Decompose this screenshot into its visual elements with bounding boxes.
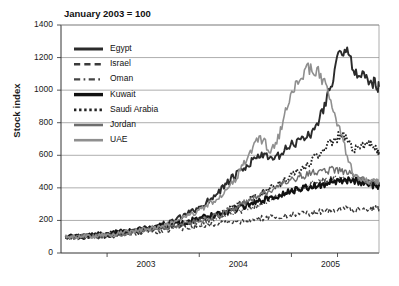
legend-swatches	[74, 49, 103, 140]
chart-figure: January 2003 = 100 Stock index 020040060…	[0, 0, 399, 286]
legend-label-uae: UAE	[110, 134, 127, 144]
legend-label-oman: Oman	[110, 73, 133, 83]
legend-label-egypt: Egypt	[110, 43, 132, 53]
legend-label-israel: Israel	[110, 58, 131, 68]
legend-label-jordan: Jordan	[110, 119, 136, 129]
legend-label-kuwait: Kuwait	[110, 89, 136, 99]
series-line-jordan	[66, 166, 379, 238]
plot-canvas	[0, 0, 399, 286]
legend-label-saudi-arabia: Saudi Arabia	[110, 104, 158, 114]
